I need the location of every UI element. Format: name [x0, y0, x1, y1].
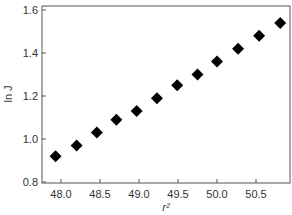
x-tick-label: 48.5 — [89, 188, 110, 200]
x-axis-label: r² — [162, 201, 170, 213]
data-point-diamond — [274, 17, 286, 29]
data-point-diamond — [91, 127, 103, 139]
data-point-diamond — [71, 139, 83, 151]
x-tick-label: 50.5 — [245, 188, 266, 200]
data-point-diamond — [50, 150, 62, 162]
y-tick-label: 1.4 — [23, 47, 38, 59]
data-points — [50, 17, 287, 162]
x-tick-label: 49.5 — [167, 188, 188, 200]
data-point-diamond — [253, 30, 265, 42]
data-point-diamond — [171, 79, 183, 91]
data-point-diamond — [151, 92, 163, 104]
x-tick-label: 48.0 — [50, 188, 71, 200]
x-tick-label: 50.0 — [206, 188, 227, 200]
y-tick-label: 0.8 — [23, 176, 38, 188]
x-axis-ticks: 48.048.549.049.550.050.5 — [50, 179, 266, 200]
plot-frame — [42, 6, 290, 183]
y-axis-label: ln J — [2, 85, 14, 102]
y-tick-label: 1.6 — [23, 4, 38, 16]
data-point-diamond — [110, 114, 122, 126]
scatter-chart: 0.81.01.21.41.6 48.048.549.049.550.050.5… — [0, 0, 292, 215]
data-point-diamond — [192, 69, 204, 81]
data-point-diamond — [131, 105, 143, 117]
data-point-diamond — [211, 56, 223, 68]
y-axis-ticks: 0.81.01.21.41.6 — [23, 4, 46, 188]
y-tick-label: 1.2 — [23, 90, 38, 102]
y-tick-label: 1.0 — [23, 133, 38, 145]
data-point-diamond — [232, 43, 244, 55]
x-tick-label: 49.0 — [128, 188, 149, 200]
